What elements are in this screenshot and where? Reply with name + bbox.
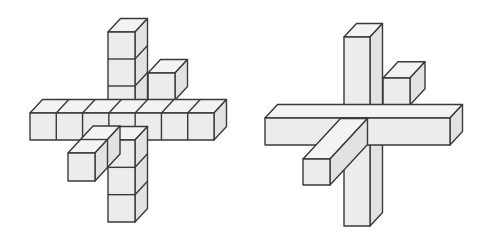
- cross-figures-diagram: [0, 0, 485, 239]
- front-depth-arm-front-face: [68, 153, 95, 181]
- solid-bar-cross-figure: [265, 24, 463, 227]
- back-depth-arm: [148, 60, 188, 101]
- diagram-canvas: [0, 0, 485, 239]
- back-depth-arm-front-face: [148, 73, 175, 100]
- front-depth-bar-front-face: [303, 159, 330, 185]
- horizontal-bar-top-face: [265, 105, 463, 119]
- back-depth-bar: [383, 62, 425, 105]
- cube-cross-figure: [30, 19, 227, 223]
- horizontal-arm-top-face: [30, 100, 227, 114]
- back-depth-bar-front-face: [383, 78, 410, 105]
- vertical-arm-bottom-side-face: [135, 127, 148, 223]
